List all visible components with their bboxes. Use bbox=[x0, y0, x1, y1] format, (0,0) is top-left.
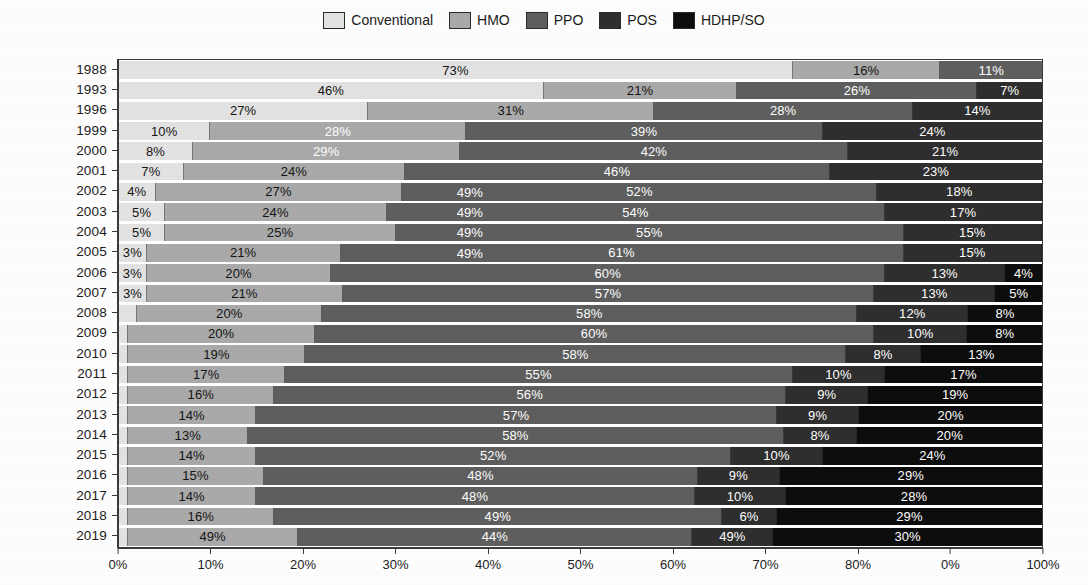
bar-segment-hmo[interactable]: 14% bbox=[128, 447, 256, 465]
bar-segment-hdhp-so[interactable]: 20% bbox=[859, 406, 1042, 424]
bar-segment-ppo[interactable]: 28% bbox=[654, 102, 912, 120]
bar-segment-hmo[interactable]: 15% bbox=[128, 467, 264, 485]
bar-segment-pos[interactable]: 49% bbox=[692, 528, 773, 546]
bar-row-2009[interactable]: 20%60%10%8% bbox=[119, 325, 1042, 343]
bar-segment-ppo[interactable]: 48% bbox=[264, 467, 698, 485]
bar-segment-hmo[interactable]: 13% bbox=[128, 427, 248, 445]
bar-segment-hmo[interactable]: 16% bbox=[793, 61, 941, 79]
bar-segment-conventional[interactable] bbox=[119, 528, 128, 546]
bar-segment-hmo[interactable]: 27% bbox=[156, 183, 403, 201]
bar-segment-pos[interactable]: 7% bbox=[977, 82, 1042, 100]
bar-row-1996[interactable]: 27%31%28%14% bbox=[119, 102, 1042, 120]
bar-segment-conventional[interactable]: 27% bbox=[119, 102, 368, 120]
bar-segment-ppo[interactable]: 55% bbox=[396, 224, 904, 242]
bar-segment-hdhp-so[interactable]: 17% bbox=[885, 366, 1042, 384]
bar-segment-hdhp-so[interactable]: 24% bbox=[823, 447, 1042, 465]
bar-segment-hdhp-so[interactable]: 19% bbox=[868, 386, 1042, 404]
bar-segment-hmo[interactable]: 24% bbox=[184, 163, 406, 181]
bar-segment-hmo[interactable]: 21% bbox=[544, 82, 738, 100]
bar-segment-conventional[interactable] bbox=[119, 467, 128, 485]
bar-row-2005[interactable]: 3%21%61%15%49% bbox=[119, 244, 1042, 262]
bar-segment-pos[interactable]: 12% bbox=[857, 305, 968, 323]
bar-segment-ppo[interactable]: 46% bbox=[405, 163, 830, 181]
bar-segment-hdhp-so[interactable]: 8% bbox=[968, 305, 1042, 323]
bar-segment-pos[interactable]: 10% bbox=[793, 366, 885, 384]
bar-segment-ppo[interactable]: 57% bbox=[343, 285, 874, 303]
bar-segment-conventional[interactable]: 3% bbox=[119, 244, 147, 262]
bar-segment-hdhp-so[interactable]: 28% bbox=[786, 487, 1042, 505]
bar-segment-hmo[interactable]: 16% bbox=[128, 386, 274, 404]
bar-segment-hmo[interactable]: 20% bbox=[147, 264, 332, 282]
bar-segment-ppo[interactable]: 42% bbox=[460, 142, 848, 160]
bar-segment-pos[interactable]: 23% bbox=[830, 163, 1042, 181]
bar-segment-conventional[interactable] bbox=[119, 325, 128, 343]
bar-row-1993[interactable]: 46%21%26%7% bbox=[119, 82, 1042, 100]
bar-segment-pos[interactable]: 6% bbox=[722, 508, 777, 526]
bar-segment-pos[interactable]: 10% bbox=[731, 447, 822, 465]
bar-segment-ppo[interactable]: 26% bbox=[737, 82, 977, 100]
bar-segment-conventional[interactable] bbox=[119, 345, 128, 363]
bar-segment-hmo[interactable]: 31% bbox=[368, 102, 654, 120]
bar-segment-conventional[interactable] bbox=[119, 508, 128, 526]
bar-segment-pos[interactable]: 17% bbox=[885, 203, 1042, 221]
bar-row-2016[interactable]: 15%48%9%29% bbox=[119, 467, 1042, 485]
bar-row-2008[interactable]: 20%58%12%8% bbox=[119, 305, 1042, 323]
bar-segment-ppo[interactable]: 54% bbox=[387, 203, 885, 221]
bar-row-2007[interactable]: 3%21%57%13%5% bbox=[119, 285, 1042, 303]
legend-item-pos[interactable]: POS bbox=[599, 12, 657, 29]
bar-segment-hdhp-so[interactable]: 29% bbox=[777, 508, 1042, 526]
bar-segment-hmo[interactable]: 14% bbox=[128, 487, 256, 505]
bar-segment-pos[interactable]: 14% bbox=[913, 102, 1042, 120]
bar-segment-hdhp-so[interactable]: 4% bbox=[1005, 264, 1042, 282]
bar-segment-pos[interactable]: 9% bbox=[786, 386, 868, 404]
bar-segment-conventional[interactable]: 46% bbox=[119, 82, 544, 100]
bar-row-2003[interactable]: 5%24%54%17%49% bbox=[119, 203, 1042, 221]
bar-row-2011[interactable]: 17%55%10%17% bbox=[119, 366, 1042, 384]
bar-segment-hmo[interactable]: 21% bbox=[147, 244, 341, 262]
bar-segment-conventional[interactable]: 5% bbox=[119, 203, 165, 221]
bar-segment-pos[interactable]: 13% bbox=[874, 285, 995, 303]
bar-row-2014[interactable]: 13%58%8%20% bbox=[119, 427, 1042, 445]
bar-segment-pos[interactable]: 9% bbox=[777, 406, 859, 424]
bar-row-2004[interactable]: 5%25%55%15%49% bbox=[119, 224, 1042, 242]
bar-segment-pos[interactable]: 24% bbox=[823, 122, 1042, 140]
bar-segment-pos[interactable]: 18% bbox=[877, 183, 1041, 201]
bar-segment-hmo[interactable]: 29% bbox=[193, 142, 461, 160]
bar-segment-conventional[interactable] bbox=[119, 487, 128, 505]
bar-segment-pos[interactable]: 21% bbox=[848, 142, 1042, 160]
bar-segment-conventional[interactable]: 3% bbox=[119, 264, 147, 282]
bar-segment-conventional[interactable]: 5% bbox=[119, 224, 165, 242]
bar-segment-conventional[interactable]: 4% bbox=[119, 183, 156, 201]
bar-segment-hdhp-so[interactable]: 30% bbox=[773, 528, 1042, 546]
bar-segment-hdhp-so[interactable]: 20% bbox=[857, 427, 1042, 445]
bar-row-2001[interactable]: 7%24%46%23% bbox=[119, 163, 1042, 181]
bar-segment-conventional[interactable]: 10% bbox=[119, 122, 210, 140]
bar-row-2013[interactable]: 14%57%9%20% bbox=[119, 406, 1042, 424]
bar-segment-conventional[interactable] bbox=[119, 427, 128, 445]
bar-segment-ppo[interactable]: 49% bbox=[274, 508, 722, 526]
bar-row-2019[interactable]: 49%44%49%30% bbox=[119, 528, 1042, 546]
bar-segment-conventional[interactable]: 8% bbox=[119, 142, 193, 160]
bar-segment-conventional[interactable] bbox=[119, 447, 128, 465]
bar-segment-ppo[interactable]: 39% bbox=[466, 122, 822, 140]
bar-segment-hmo[interactable]: 28% bbox=[210, 122, 466, 140]
bar-segment-conventional[interactable] bbox=[119, 406, 128, 424]
bar-row-1999[interactable]: 10%28%39%24% bbox=[119, 122, 1042, 140]
bar-segment-hdhp-so[interactable]: 29% bbox=[780, 467, 1042, 485]
bar-row-2000[interactable]: 8%29%42%21% bbox=[119, 142, 1042, 160]
bar-segment-ppo[interactable]: 44% bbox=[298, 528, 692, 546]
bar-segment-hdhp-so[interactable]: 5% bbox=[995, 285, 1042, 303]
bar-segment-pos[interactable]: 13% bbox=[885, 264, 1005, 282]
bar-segment-hmo[interactable]: 14% bbox=[128, 406, 256, 424]
bar-segment-ppo[interactable]: 55% bbox=[285, 366, 793, 384]
bar-row-2018[interactable]: 16%49%6%29% bbox=[119, 508, 1042, 526]
bar-segment-hmo[interactable]: 16% bbox=[128, 508, 274, 526]
bar-segment-ppo[interactable]: 58% bbox=[322, 305, 857, 323]
bar-segment-conventional[interactable] bbox=[119, 386, 128, 404]
bar-segment-pos[interactable]: 15% bbox=[904, 224, 1042, 242]
bar-segment-pos[interactable]: 10% bbox=[695, 487, 786, 505]
bar-segment-pos[interactable]: 8% bbox=[784, 427, 858, 445]
bar-segment-ppo[interactable]: 60% bbox=[331, 264, 885, 282]
bar-segment-ppo[interactable]: 52% bbox=[402, 183, 877, 201]
bar-segment-hmo[interactable]: 20% bbox=[137, 305, 322, 323]
